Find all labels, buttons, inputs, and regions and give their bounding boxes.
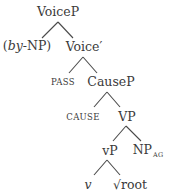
- edge-vp-npag: [126, 126, 141, 141]
- node-pass: PASS: [51, 75, 75, 89]
- edge-causep-vp: [107, 92, 120, 107]
- np-text: -NP: [23, 38, 47, 53]
- node-by-np: (by-NP): [3, 39, 51, 53]
- node-voice-bar: Voice′: [66, 40, 103, 54]
- node-label: CauseP: [87, 74, 134, 89]
- edge-vp-v: [94, 160, 107, 175]
- edge-vp-root: [107, 160, 120, 175]
- by-italic: by: [8, 38, 23, 53]
- subscript-ag: AG: [153, 151, 163, 159]
- edge-causep-cause: [94, 92, 107, 107]
- node-root: √root: [113, 178, 147, 192]
- node-label: vP: [102, 143, 117, 158]
- node-vp-lower: vP: [102, 144, 117, 158]
- edge-voicebar-causep: [83, 57, 97, 73]
- node-label: VP: [118, 109, 135, 124]
- node-np-ag: NPAG: [133, 143, 164, 159]
- node-label: VoiceP: [37, 4, 79, 19]
- node-label: Voice′: [66, 39, 103, 54]
- edge-voicebar-pass: [69, 57, 83, 73]
- edge-vp-vp: [113, 126, 126, 141]
- node-v: v: [84, 178, 91, 192]
- node-vp-upper: VP: [118, 110, 135, 124]
- node-label: v: [84, 177, 91, 192]
- node-causep: CauseP: [87, 75, 134, 89]
- node-label: NP: [133, 142, 152, 157]
- edge-voicep-voicebar: [58, 22, 73, 38]
- node-label: √root: [113, 177, 147, 192]
- tree-edges: [0, 0, 170, 196]
- edge-voicep-bynp: [42, 22, 58, 38]
- paren-close: ): [46, 38, 51, 53]
- node-cause: CAUSE: [66, 110, 99, 124]
- node-label: PASS: [51, 77, 75, 87]
- node-voicep: VoiceP: [37, 5, 79, 19]
- node-label: CAUSE: [66, 112, 99, 122]
